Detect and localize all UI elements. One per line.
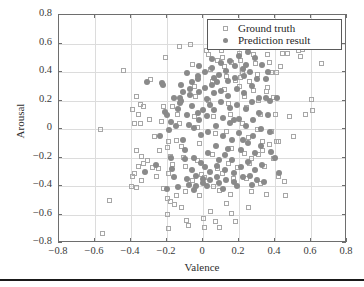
data-point-ground-truth: [278, 64, 283, 69]
y-tick-label: 0.8: [12, 7, 52, 18]
legend-item-ground-truth: Ground truth: [212, 22, 337, 34]
data-point-ground-truth: [183, 164, 188, 169]
data-point-ground-truth: [157, 148, 162, 153]
data-point-prediction: [238, 164, 244, 170]
data-point-ground-truth: [139, 178, 144, 183]
y-tick-mark: [58, 14, 62, 15]
data-point-prediction: [157, 133, 163, 139]
gridline-vertical: [131, 15, 132, 241]
x-tick-mark: [238, 238, 239, 242]
gridline-vertical: [95, 15, 96, 241]
data-point-prediction: [164, 186, 170, 192]
data-point-prediction: [223, 177, 229, 183]
x-tick-mark: [310, 238, 311, 242]
data-point-ground-truth: [291, 134, 296, 139]
data-point-prediction: [265, 112, 271, 118]
y-tick-label: 0.4: [12, 64, 52, 75]
data-point-prediction: [186, 182, 192, 188]
data-point-ground-truth: [303, 112, 308, 117]
data-point-ground-truth: [208, 209, 213, 214]
y-tick-mark: [342, 214, 346, 215]
data-point-prediction: [195, 110, 201, 116]
data-point-prediction: [182, 147, 188, 153]
data-point-ground-truth: [165, 212, 170, 217]
open-square-icon: [212, 26, 238, 31]
data-point-prediction: [184, 70, 190, 76]
data-point-ground-truth: [267, 142, 272, 147]
data-point-ground-truth: [283, 193, 288, 198]
data-point-prediction: [276, 170, 282, 176]
y-tick-mark: [58, 128, 62, 129]
data-point-prediction: [168, 155, 174, 161]
data-point-prediction: [229, 137, 235, 143]
legend-label-ground-truth: Ground truth: [238, 22, 295, 34]
data-point-ground-truth: [267, 60, 272, 65]
data-point-prediction: [184, 176, 190, 182]
data-point-prediction: [267, 98, 273, 104]
data-point-ground-truth: [174, 193, 179, 198]
data-point-prediction: [241, 73, 247, 79]
data-point-prediction: [196, 63, 202, 69]
page-bottom-rule: [0, 279, 364, 281]
data-point-ground-truth: [224, 201, 229, 206]
data-point-prediction: [213, 143, 219, 149]
data-point-prediction: [195, 76, 201, 82]
data-point-prediction: [247, 173, 253, 179]
data-point-ground-truth: [163, 55, 168, 60]
data-point-ground-truth: [165, 145, 170, 150]
data-point-ground-truth: [186, 223, 191, 228]
y-tick-label: −0.8: [12, 235, 52, 246]
data-point-prediction: [193, 173, 199, 179]
scatter-plot-figure: −0.8−0.6−0.4−0.200.20.40.60.80.80.60.40.…: [0, 0, 364, 287]
data-point-prediction: [258, 126, 264, 132]
data-point-prediction: [268, 149, 274, 155]
data-point-ground-truth: [274, 70, 279, 75]
data-point-prediction: [204, 113, 210, 119]
x-tick-label: 0: [182, 245, 222, 256]
x-tick-label: −0.8: [38, 245, 78, 256]
data-point-prediction: [216, 157, 222, 163]
data-point-ground-truth: [172, 202, 177, 207]
data-point-prediction: [261, 179, 267, 185]
data-point-prediction: [265, 69, 271, 75]
x-tick-mark: [202, 238, 203, 242]
data-point-ground-truth: [202, 225, 207, 230]
x-tick-mark: [94, 14, 95, 18]
data-point-ground-truth: [188, 42, 193, 47]
data-point-ground-truth: [134, 148, 139, 153]
x-tick-label: 0.2: [218, 245, 258, 256]
gridline-horizontal: [59, 101, 345, 102]
data-point-ground-truth: [159, 119, 164, 124]
data-point-ground-truth: [211, 114, 216, 119]
data-point-prediction: [250, 133, 256, 139]
data-point-prediction: [169, 166, 175, 172]
data-point-ground-truth: [249, 189, 254, 194]
data-point-prediction: [234, 102, 240, 108]
data-point-prediction: [218, 99, 224, 105]
data-point-ground-truth: [282, 179, 287, 184]
x-tick-label: −0.4: [110, 245, 150, 256]
y-tick-mark: [342, 242, 346, 243]
data-point-prediction: [243, 106, 249, 112]
data-point-ground-truth: [132, 121, 137, 126]
x-tick-mark: [166, 238, 167, 242]
data-point-prediction: [263, 76, 269, 82]
data-point-ground-truth: [253, 61, 258, 66]
data-point-ground-truth: [177, 44, 182, 49]
data-point-prediction: [247, 69, 253, 75]
y-tick-mark: [342, 100, 346, 101]
data-point-ground-truth: [217, 225, 222, 230]
data-point-prediction: [250, 117, 256, 123]
y-tick-mark: [58, 71, 62, 72]
data-point-ground-truth: [175, 112, 180, 117]
data-point-ground-truth: [310, 108, 315, 113]
x-tick-label: −0.2: [146, 245, 186, 256]
data-point-prediction: [175, 184, 181, 190]
legend-item-prediction-result: Prediction result: [212, 34, 337, 46]
data-point-ground-truth: [213, 131, 218, 136]
data-point-prediction: [142, 169, 148, 175]
data-point-prediction: [177, 95, 183, 101]
data-point-prediction: [204, 183, 210, 189]
data-point-prediction: [189, 103, 195, 109]
data-point-ground-truth: [298, 54, 303, 59]
